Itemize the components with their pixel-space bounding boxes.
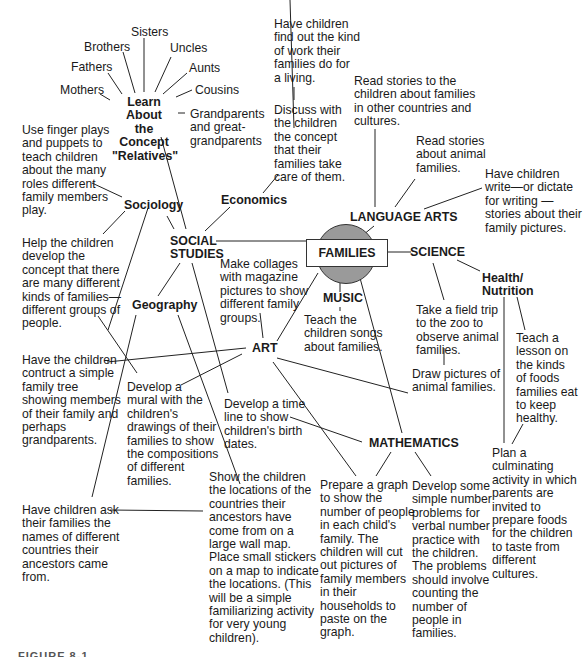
- figure-caption: FIGURE 8-1: [18, 651, 89, 657]
- hub-language-arts: LANGUAGE ARTS: [350, 211, 458, 224]
- hub-sociology: Sociology: [124, 199, 183, 212]
- activity-health-culminating: Plan a culminating activity in which par…: [492, 447, 577, 581]
- hub-art: ART: [252, 342, 277, 355]
- activity-lang-write: Have children write—or dictate for writi…: [485, 168, 582, 235]
- hub-health-nutrition: Health/ Nutrition: [482, 272, 534, 299]
- activity-lang-other-countries: Read stories to the children about famil…: [354, 75, 475, 129]
- relative-grandparents: Grandparents and great- grandparents: [190, 108, 265, 148]
- hub-science: SCIENCE: [410, 246, 465, 259]
- activity-economics-work: Have children find out the kind of work …: [274, 18, 360, 85]
- activity-art-collages: Make collages with magazine pictures to …: [220, 258, 308, 325]
- relative-sisters: Sisters: [131, 26, 168, 39]
- families-center-node: FAMILIES: [306, 239, 388, 267]
- relative-fathers: Fathers: [71, 61, 112, 74]
- activity-lang-animal-stories: Read stories about animal families.: [416, 135, 486, 175]
- hub-social-studies: SOCIAL STUDIES: [170, 235, 224, 262]
- activity-geo-map: Show the children the locations of the c…: [209, 471, 319, 645]
- relative-mothers: Mothers: [60, 84, 104, 97]
- activity-family-tree: Have the children contruct a simple fami…: [22, 354, 121, 448]
- relative-aunts: Aunts: [189, 62, 220, 75]
- activity-geo-ask: Have children ask their families the nam…: [22, 504, 119, 584]
- activity-art-mural: Develop a mural with the children's draw…: [127, 381, 218, 488]
- activity-math-graph: Prepare a graph to show the number of pe…: [320, 479, 415, 640]
- activity-sociology-fingerplays: Use finger plays and puppets to teach ch…: [22, 124, 109, 218]
- hub-geography: Geography: [132, 299, 197, 312]
- families-label: FAMILIES: [318, 246, 375, 260]
- activity-science-zoo: Take a field trip to the zoo to observe …: [416, 304, 499, 358]
- activity-health-lesson: Teach a lesson on the kinds of foods fam…: [516, 332, 578, 426]
- families-curriculum-web: Sisters Brothers Uncles Fathers Aunts Mo…: [0, 0, 584, 657]
- hub-relatives: Learn About the Concept "Relatives": [112, 96, 176, 163]
- activity-economics-care: Discuss with the children the concept th…: [274, 104, 345, 184]
- activity-time-line: Develop a time line to show children's b…: [224, 398, 305, 452]
- hub-music: MUSIC: [323, 292, 363, 305]
- hub-mathematics: MATHEMATICS: [369, 437, 459, 450]
- activity-music-songs: Teach the children songs about families.: [304, 314, 383, 354]
- relative-cousins: Cousins: [195, 84, 239, 97]
- relative-brothers: Brothers: [84, 41, 130, 54]
- relative-uncles: Uncles: [170, 42, 207, 55]
- activity-science-draw: Draw pictures of animal families.: [412, 368, 500, 395]
- activity-math-problems: Develop some simple number problems for …: [412, 480, 492, 641]
- activity-sociology-kinds: Help the children develop the concept th…: [22, 237, 121, 331]
- hub-economics: Economics: [221, 194, 287, 207]
